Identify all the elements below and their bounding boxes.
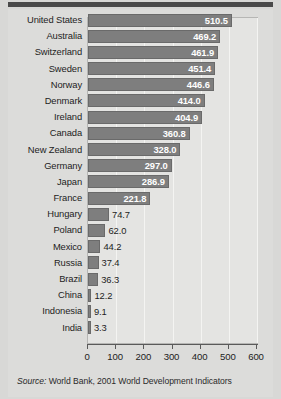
x-axis-tick <box>172 344 173 349</box>
bar-row: France221.8 <box>8 190 273 206</box>
bar-row: Sweden451.4 <box>8 61 273 77</box>
category-label: Brazil <box>8 272 82 285</box>
category-label: Australia <box>8 29 82 42</box>
bar-value-label: 446.6 <box>88 78 210 91</box>
bar-row: Australia469.2 <box>8 28 273 44</box>
bar[interactable] <box>88 273 98 286</box>
category-label: Sweden <box>8 62 82 75</box>
bar-value-label: 414.0 <box>88 94 201 107</box>
bar-value-label: 37.4 <box>102 256 120 269</box>
bar-row: Hungary74.7 <box>8 206 273 222</box>
bar-value-label: 328.0 <box>88 143 176 156</box>
bar-value-label: 404.9 <box>88 111 198 124</box>
bar-row: Indonesia9.1 <box>8 303 273 319</box>
figure-page: United States510.5Australia469.2Switzerl… <box>0 0 281 399</box>
bar[interactable] <box>88 289 91 302</box>
category-label: Canada <box>8 126 82 139</box>
bar-row: India3.3 <box>8 320 273 336</box>
bar[interactable] <box>88 224 105 237</box>
bar-row: Germany297.0 <box>8 158 273 174</box>
source-text: World Bank, 2001 World Development Indic… <box>49 376 232 386</box>
bar-row: Switzerland461.9 <box>8 44 273 60</box>
category-label: New Zealand <box>8 143 82 156</box>
bar[interactable] <box>88 208 109 221</box>
category-label: Norway <box>8 78 82 91</box>
category-label: Japan <box>8 175 82 188</box>
bar-row: Canada360.8 <box>8 125 273 141</box>
x-axis-tick <box>256 344 257 349</box>
category-label: United States <box>8 13 82 26</box>
category-label: Poland <box>8 223 82 236</box>
bar-value-label: 62.0 <box>108 224 126 237</box>
bar[interactable] <box>88 305 91 318</box>
bar-row: Denmark414.0 <box>8 93 273 109</box>
bar-value-label: 461.9 <box>88 46 214 59</box>
bar-value-label: 510.5 <box>88 14 228 27</box>
x-axis-tick <box>200 344 201 349</box>
x-axis <box>87 344 258 350</box>
category-label: Hungary <box>8 207 82 220</box>
x-axis-tick-labels: 0100200300400500600 <box>87 351 258 365</box>
x-axis-tick-label: 600 <box>236 351 276 363</box>
x-axis-line <box>87 344 258 345</box>
bar-value-label: 12.2 <box>94 289 112 302</box>
bar-value-label: 74.7 <box>112 208 130 221</box>
figure-sheet: United States510.5Australia469.2Switzerl… <box>8 9 273 397</box>
bar-row: Japan286.9 <box>8 174 273 190</box>
bar-value-label: 9.1 <box>94 305 107 318</box>
bar-row: China12.2 <box>8 287 273 303</box>
category-label: India <box>8 321 82 334</box>
bar-chart: United States510.5Australia469.2Switzerl… <box>8 9 273 369</box>
category-label: Mexico <box>8 240 82 253</box>
x-axis-tick <box>228 344 229 349</box>
source-note: Source: World Bank, 2001 World Developme… <box>17 375 232 387</box>
bar-value-label: 36.3 <box>101 273 119 286</box>
bar-row: Russia37.4 <box>8 255 273 271</box>
bar-row: Ireland404.9 <box>8 109 273 125</box>
source-label: Source: <box>17 376 46 386</box>
bar[interactable] <box>88 256 99 269</box>
category-label: Russia <box>8 256 82 269</box>
bar[interactable] <box>88 321 91 334</box>
category-label: Ireland <box>8 110 82 123</box>
category-label: Germany <box>8 159 82 172</box>
category-label: China <box>8 288 82 301</box>
x-axis-tick <box>87 344 88 349</box>
bar-value-label: 221.8 <box>88 192 146 205</box>
bar-row: United States510.5 <box>8 12 273 28</box>
x-axis-tick <box>143 344 144 349</box>
bar-row: Brazil36.3 <box>8 271 273 287</box>
bar-value-label: 44.2 <box>103 240 121 253</box>
bar-value-label: 297.0 <box>88 159 168 172</box>
category-label: Indonesia <box>8 304 82 317</box>
top-rule-divider <box>8 2 273 7</box>
bar-value-label: 469.2 <box>88 30 216 43</box>
bar-rows: United States510.5Australia469.2Switzerl… <box>8 12 273 336</box>
bar-row: New Zealand328.0 <box>8 142 273 158</box>
bar-value-label: 451.4 <box>88 62 211 75</box>
category-label: Denmark <box>8 94 82 107</box>
bar-row: Norway446.6 <box>8 77 273 93</box>
bar-value-label: 360.8 <box>88 127 186 140</box>
bar-row: Poland62.0 <box>8 222 273 238</box>
x-axis-tick <box>115 344 116 349</box>
bar-value-label: 286.9 <box>88 175 165 188</box>
bar[interactable] <box>88 240 100 253</box>
category-label: France <box>8 191 82 204</box>
category-label: Switzerland <box>8 45 82 58</box>
bar-row: Mexico44.2 <box>8 239 273 255</box>
bar-value-label: 3.3 <box>94 321 107 334</box>
